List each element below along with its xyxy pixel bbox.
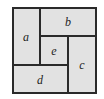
region-label-b: b [65,15,71,30]
region-label-d: d [37,73,43,88]
divider-d-top [12,64,69,66]
region-label-e: e [51,44,56,59]
region-label-c: c [79,58,84,73]
region-label-a: a [23,30,29,45]
